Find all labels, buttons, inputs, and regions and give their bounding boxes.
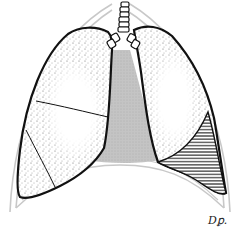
artist-signature: Dꝑ. xyxy=(208,214,227,227)
trachea xyxy=(106,2,140,49)
lung-diagram xyxy=(0,0,240,235)
right-lung xyxy=(17,28,112,198)
